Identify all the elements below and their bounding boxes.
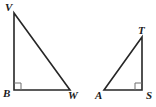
triangle-vbw-outline (14, 13, 70, 90)
vertex-label-s: S (146, 90, 152, 101)
right-angle-s-mark (135, 83, 142, 90)
right-angle-b-mark (14, 83, 21, 90)
triangle-tas (104, 37, 142, 90)
vertex-label-v: V (5, 2, 12, 13)
vertex-label-w: W (68, 90, 78, 101)
geometry-figure: V B W T A S (0, 0, 156, 107)
triangle-vbw (14, 13, 70, 90)
triangle-tas-outline (104, 37, 142, 90)
vertex-label-t: T (138, 25, 145, 36)
vertex-label-a: A (95, 90, 102, 101)
geometry-canvas (0, 0, 156, 107)
vertex-label-b: B (3, 88, 10, 99)
